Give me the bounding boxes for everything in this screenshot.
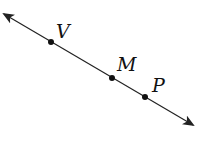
point-m: M	[109, 53, 137, 81]
point-m-dot	[109, 75, 115, 81]
point-p-label: P	[151, 74, 166, 96]
point-p-dot	[142, 94, 148, 100]
point-v-dot	[48, 39, 54, 45]
point-p: P	[142, 74, 166, 100]
point-v: V	[48, 20, 72, 45]
line-vp	[4, 14, 193, 125]
point-m-label: M	[116, 53, 137, 75]
line-diagram: V M P	[0, 0, 197, 144]
point-v-label: V	[56, 20, 72, 42]
